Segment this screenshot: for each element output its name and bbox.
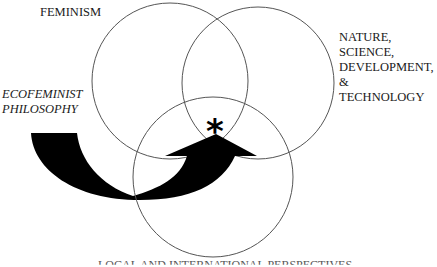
nature-label-line: DEVELOPMENT, [339, 60, 437, 75]
ecofeminist-label-line: ECOFEMINIST [2, 87, 83, 102]
ecofeminist-label-line: PHILOSOPHY [2, 102, 83, 117]
nature-label-line: NATURE, [339, 30, 437, 45]
nature-science-label: NATURE, SCIENCE, DEVELOPMENT, & TECHNOLO… [339, 30, 437, 105]
ecofeminist-philosophy-label: ECOFEMINIST PHILOSOPHY [2, 87, 83, 117]
feminism-circle [92, 3, 248, 159]
nature-label-line: & TECHNOLOGY [339, 75, 437, 105]
feminism-label: FEMINISM [40, 5, 101, 20]
nature-label-line: SCIENCE, [339, 45, 437, 60]
nature-science-circle [182, 7, 334, 159]
center-asterisk: * [206, 111, 224, 151]
